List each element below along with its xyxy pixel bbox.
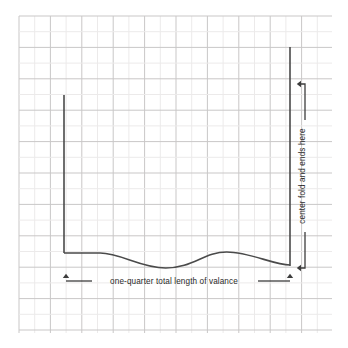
arrow-left-top-icon [297,81,301,87]
vertical-dimension-label: center fold and ends here [298,128,307,224]
valance-diagram: one-quarter total length of valance cent… [0,0,348,348]
arrow-up-right-icon [287,274,293,278]
arrow-up-left-icon [63,274,69,278]
diagram-canvas: one-quarter total length of valance cent… [0,0,348,348]
arrow-left-bottom-icon [297,265,301,271]
horizontal-dimension-label: one-quarter total length of valance [110,277,238,286]
